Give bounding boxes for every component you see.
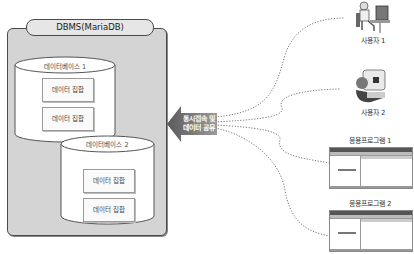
user-at-computer-icon <box>352 0 394 34</box>
application-window-icon <box>329 210 413 252</box>
user-1: 사용자 1 <box>348 0 398 44</box>
application-2: 응용프로그램 2 <box>325 198 414 254</box>
user-2-label: 사용자 2 <box>348 107 398 117</box>
user-2: 사용자 2 <box>348 68 398 116</box>
database-1-label: 데이터베이스 1 <box>14 61 116 71</box>
concurrent-access-arrow: 동시접속 및 데이터 공유 <box>167 104 217 144</box>
line-to-user-2 <box>215 89 340 122</box>
line-to-app-1 <box>215 125 330 163</box>
database-2: 데이터베이스 2 데이터 집합 데이터 집합 <box>60 134 155 226</box>
dataset-box: 데이터 집합 <box>83 169 135 193</box>
user-1-label: 사용자 1 <box>348 35 398 45</box>
dataset-box: 데이터 집합 <box>42 78 94 102</box>
application-window-icon <box>329 147 413 189</box>
dataset-box: 데이터 집합 <box>83 198 135 222</box>
database-1: 데이터베이스 1 데이터 집합 데이터 집합 <box>14 56 116 144</box>
dataset-box: 데이터 집합 <box>42 107 94 131</box>
application-2-label: 응용프로그램 2 <box>335 198 405 208</box>
line-to-user-1 <box>215 18 345 117</box>
application-1-label: 응용프로그램 1 <box>335 135 405 145</box>
arrow-label-line-2: 데이터 공유 <box>183 124 215 133</box>
arrow-label: 동시접속 및 데이터 공유 <box>183 115 215 133</box>
line-to-app-2 <box>215 128 330 236</box>
application-1: 응용프로그램 1 <box>325 135 414 195</box>
user-with-monitor-icon <box>353 68 393 104</box>
database-2-label: 데이터베이스 2 <box>60 139 155 149</box>
arrow-label-line-1: 동시접속 및 <box>183 115 215 124</box>
dbms-title: DBMS(MariaDB) <box>26 19 154 36</box>
